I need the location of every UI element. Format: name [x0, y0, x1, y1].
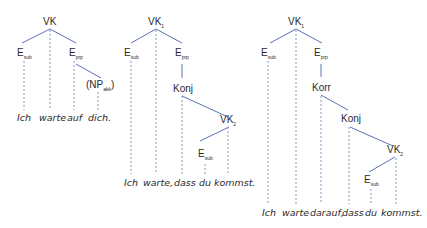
word: warte, [143, 177, 173, 188]
word: dass [174, 177, 196, 188]
word: du [365, 207, 377, 218]
node-np-akk: (NPakk) [86, 79, 114, 92]
word: Ich [17, 112, 31, 123]
edge-vk1-esub [270, 29, 296, 43]
edge-korr-konj [321, 95, 348, 110]
edge-vk1-eprp [296, 29, 322, 43]
tree-2: VK1 Esub Eprp Konj VK2 Esub Ich warte, d… [124, 16, 256, 188]
word: kommst. [214, 177, 256, 188]
tree-1: VK Esub Eprp (NPakk) Ich warte auf dich. [17, 16, 114, 123]
node-vk2: VK2 [387, 144, 403, 157]
node-e-sub: Esub [261, 47, 276, 60]
edge-vk2-esub [200, 127, 229, 141]
word: dich. [88, 112, 111, 123]
word: kommst. [381, 207, 423, 218]
word: Ich [124, 177, 138, 188]
node-e-prp: Eprp [175, 47, 189, 60]
node-konj: Konj [173, 83, 193, 94]
node-korr: Korr [312, 82, 332, 93]
edge-vk-esub [22, 29, 50, 43]
word: Ich [262, 207, 276, 218]
node-root: VK [43, 16, 57, 27]
node-e-prp: Eprp [69, 47, 83, 60]
word: darauf, [310, 207, 344, 218]
edge-vk1-eprp [156, 29, 182, 43]
node-root: VK1 [148, 16, 164, 29]
edge-eprp-np [76, 64, 101, 78]
node-e-prp: Eprp [314, 47, 328, 60]
edge-vk1-esub [131, 29, 156, 43]
syntax-tree-diagram: VK Esub Eprp (NPakk) Ich warte auf dich.… [0, 0, 427, 228]
tree-3: VK1 Esub Eprp Korr Konj VK2 Esub Ich war… [261, 16, 423, 218]
node-vk2: VK2 [220, 114, 236, 127]
node-e-sub: Esub [17, 47, 32, 60]
word: warte [282, 207, 309, 218]
word: dass [342, 207, 364, 218]
word: warte [39, 112, 66, 123]
node-konj: Konj [341, 113, 361, 124]
node-e-sub-2: Esub [198, 148, 213, 161]
node-e-sub: Esub [124, 47, 139, 60]
node-root: VK1 [288, 16, 304, 29]
word: auf [67, 112, 84, 123]
edge-vk-eprp [50, 29, 76, 43]
node-e-sub-2: Esub [364, 174, 379, 187]
word: du [199, 177, 211, 188]
edge-vk2-esub [369, 157, 395, 172]
